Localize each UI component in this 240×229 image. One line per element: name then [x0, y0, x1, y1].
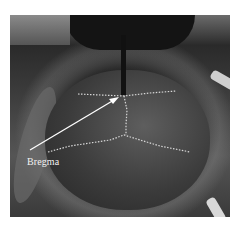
bregma-arrow: [30, 97, 119, 150]
bregma-label: Bregma: [27, 156, 59, 167]
sagittal-suture: [124, 96, 127, 135]
annotation-overlay: [0, 0, 240, 229]
coronal-suture: [78, 91, 176, 96]
lambdoid-suture: [48, 135, 190, 152]
suture-lines: [48, 91, 190, 152]
arrowhead-icon: [109, 97, 119, 104]
